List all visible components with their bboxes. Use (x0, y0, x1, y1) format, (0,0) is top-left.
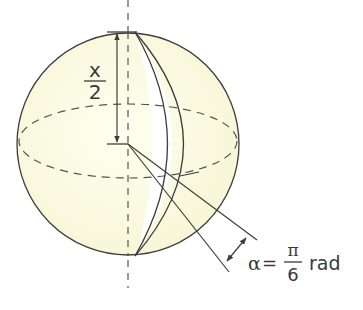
angle-label-equals: = (262, 252, 277, 273)
angle-label-symbol: α (248, 252, 261, 274)
height-label-denominator: 2 (89, 80, 102, 104)
angle-label-denominator: 6 (287, 264, 298, 285)
angle-label-unit: rad (309, 252, 341, 274)
sphere-wedge-diagram: x 2 α = π 6 rad (0, 0, 363, 310)
angle-label-numerator: π (287, 240, 298, 260)
angle-dimension-arrow (227, 238, 246, 261)
height-label-numerator: x (89, 58, 101, 82)
angle-label: α = π 6 rad (248, 240, 341, 285)
